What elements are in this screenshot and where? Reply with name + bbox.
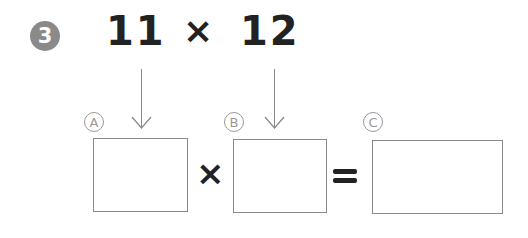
label-c: C — [363, 112, 383, 132]
label-b: B — [224, 112, 244, 132]
arrow-down-icon — [264, 116, 285, 130]
answer-box-b[interactable] — [233, 139, 327, 213]
equals-bar-bottom — [333, 178, 357, 183]
operator-times: × — [183, 10, 215, 51]
answer-box-c[interactable] — [372, 140, 503, 214]
equals-bar-top — [333, 169, 357, 174]
times-symbol: × — [196, 156, 225, 190]
arrow-down-icon — [131, 116, 152, 130]
right-operand: 12 — [240, 8, 300, 54]
left-operand: 11 — [106, 8, 166, 54]
problem-number-badge: 3 — [30, 21, 60, 51]
answer-box-a[interactable] — [93, 138, 188, 212]
label-a: A — [84, 112, 104, 132]
